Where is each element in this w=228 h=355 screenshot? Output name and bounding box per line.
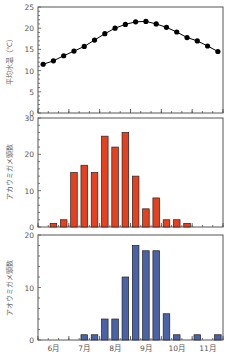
data-point — [164, 25, 169, 30]
green-turtle-count-panel: 01020 — [24, 231, 223, 345]
plot-frame — [38, 118, 223, 227]
loggerhead-count-panel: 0102030 — [24, 114, 223, 232]
bar — [102, 136, 109, 227]
data-point — [71, 48, 76, 53]
data-point — [123, 22, 128, 27]
bar — [163, 314, 170, 340]
month-label: 10月 — [168, 344, 185, 353]
y-tick-label: 20 — [24, 231, 34, 240]
bar — [173, 220, 180, 227]
y-tick-label: 20 — [24, 24, 34, 33]
month-label: 9月 — [140, 344, 152, 353]
bar — [153, 251, 160, 340]
y-tick-label: 30 — [24, 114, 34, 123]
y-tick-label: 0 — [29, 336, 34, 345]
mid-y-axis-label: アカウミガメ頭数 — [5, 144, 14, 200]
bar — [173, 335, 180, 340]
bar — [60, 220, 67, 227]
month-label: 8月 — [109, 344, 121, 353]
bar — [143, 209, 150, 227]
bot-y-axis-label: アオウミガメ頭数 — [5, 260, 14, 316]
bar — [50, 223, 57, 227]
bar — [122, 277, 129, 340]
data-point — [205, 43, 210, 48]
data-point — [41, 62, 46, 67]
figure: 0510152025 0102030 01020 6月7月8月9月10月11月 … — [0, 0, 228, 355]
bar — [112, 147, 119, 227]
data-point — [61, 53, 66, 58]
bar — [132, 176, 139, 227]
month-label: 7月 — [78, 344, 90, 353]
bar — [143, 251, 150, 340]
y-tick-label: 10 — [24, 187, 34, 196]
data-point — [82, 44, 87, 49]
y-tick-label: 15 — [24, 45, 34, 54]
plot-frame — [38, 235, 223, 340]
y-tick-label: 25 — [24, 3, 34, 12]
data-point — [174, 29, 179, 34]
bar — [194, 335, 201, 340]
data-point — [133, 19, 138, 24]
top-y-axis-label: 平均水温（℃） — [5, 35, 14, 85]
bar — [102, 319, 109, 340]
bar — [71, 173, 78, 228]
data-point — [215, 49, 220, 54]
month-label: 11月 — [199, 344, 216, 353]
data-point — [195, 38, 200, 43]
bar — [132, 246, 139, 341]
bar — [122, 133, 129, 227]
data-point — [143, 19, 148, 24]
bar — [112, 319, 119, 340]
data-point — [154, 21, 159, 26]
bar — [184, 223, 191, 227]
month-label: 6月 — [48, 344, 60, 353]
bar — [91, 335, 98, 340]
data-point — [92, 37, 97, 42]
y-tick-label: 20 — [24, 150, 34, 159]
y-tick-label: 5 — [29, 88, 34, 97]
data-point — [112, 26, 117, 31]
data-point — [102, 31, 107, 36]
bar — [81, 335, 88, 340]
bar — [163, 220, 170, 227]
bar — [153, 198, 160, 227]
y-tick-label: 10 — [24, 284, 34, 293]
bar — [81, 165, 88, 227]
data-point — [51, 58, 56, 63]
bar — [215, 335, 222, 340]
bar — [91, 173, 98, 228]
y-tick-label: 10 — [24, 67, 34, 76]
data-point — [184, 35, 189, 40]
water-temperature-panel: 0510152025 — [24, 3, 223, 118]
